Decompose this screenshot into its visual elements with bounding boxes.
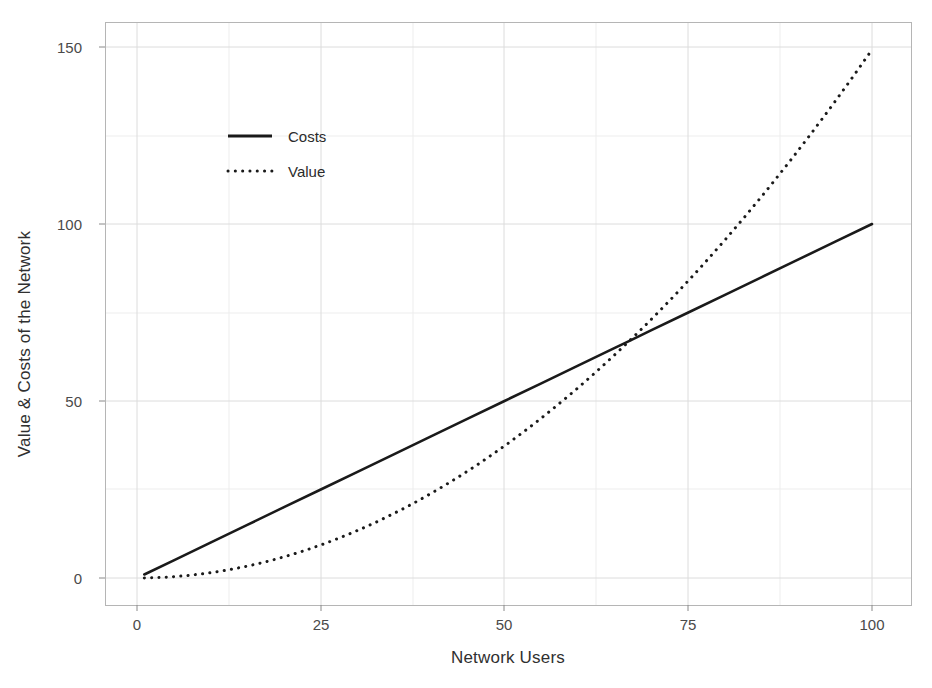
axis-ticks — [99, 47, 872, 611]
plot-canvas — [0, 0, 932, 688]
legend-label-costs: Costs — [288, 128, 326, 145]
legend-label-value: Value — [288, 163, 325, 180]
grid-minor — [105, 22, 911, 605]
series-costs-line — [144, 224, 872, 575]
legend — [228, 136, 272, 171]
series-value-curve-full — [144, 50, 872, 578]
chart-figure: Value & Costs of the Network Network Use… — [0, 0, 932, 688]
panel-border — [106, 23, 912, 606]
